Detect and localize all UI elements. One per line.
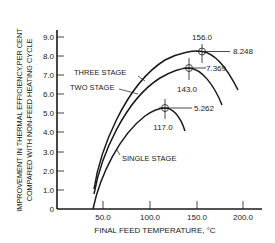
x-tick-labels: 50.0 100.0 150.0 200.0: [95, 213, 253, 222]
svg-text:7.0: 7.0: [43, 71, 55, 80]
svg-text:50.0: 50.0: [95, 213, 111, 222]
svg-text:156.0: 156.0: [192, 33, 213, 42]
peak-labels: 156.0 8.248 143.0 7.369 117.0 5.262: [153, 33, 253, 132]
svg-text:SINGLE STAGE: SINGLE STAGE: [122, 154, 176, 163]
svg-text:6.0: 6.0: [43, 90, 55, 99]
svg-text:7.369: 7.369: [206, 64, 227, 73]
series-labels: THREE STAGE TWO STAGE SINGLE STAGE: [70, 68, 176, 163]
svg-text:3.0: 3.0: [43, 148, 55, 157]
y-axis-label: IMPROVEMENT IN THERMAL EFFICIENCY,PER CE…: [15, 28, 34, 212]
svg-text:143.0: 143.0: [177, 85, 198, 94]
y-tick-labels: 9.0 8.0 7.0 6.0 5.0 4.0 3.0 2.0 1.0 0: [43, 33, 55, 214]
svg-text:8.0: 8.0: [43, 52, 55, 61]
svg-text:5.262: 5.262: [194, 104, 215, 113]
chart: 9.0 8.0 7.0 6.0 5.0 4.0 3.0 2.0 1.0 0 50…: [0, 0, 275, 243]
svg-text:117.0: 117.0: [153, 123, 173, 132]
y-ticks: [57, 37, 64, 190]
svg-text:THREE STAGE: THREE STAGE: [74, 68, 126, 77]
svg-text:9.0: 9.0: [43, 33, 55, 42]
svg-text:1.0: 1.0: [43, 186, 55, 195]
svg-text:200.0: 200.0: [233, 213, 254, 222]
x-ticks: [103, 201, 243, 209]
svg-text:5.0: 5.0: [43, 109, 55, 118]
svg-text:2.0: 2.0: [43, 167, 55, 176]
svg-text:COMPARED WITH NON-FEED HEATING: COMPARED WITH NON-FEED HEATING CYCLE: [25, 39, 34, 202]
svg-text:8.248: 8.248: [233, 47, 254, 56]
svg-text:0: 0: [50, 205, 55, 214]
svg-text:150.0: 150.0: [187, 213, 208, 222]
svg-text:IMPROVEMENT IN THERMAL EFFICIE: IMPROVEMENT IN THERMAL EFFICIENCY,PER CE…: [15, 28, 24, 212]
svg-text:4.0: 4.0: [43, 128, 55, 137]
x-axis-label: FINAL FEED TEMPERATURE, °C: [94, 226, 216, 235]
svg-text:TWO STAGE: TWO STAGE: [70, 83, 114, 92]
svg-text:100.0: 100.0: [140, 213, 161, 222]
